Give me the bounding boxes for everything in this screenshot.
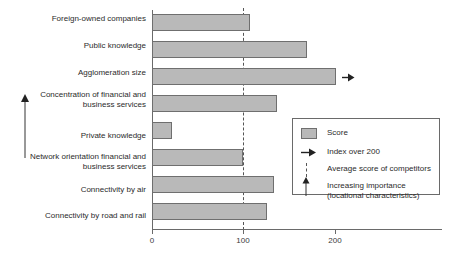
bar-foreign-owned-companies (152, 14, 250, 31)
bar-concentration-financial-business-services (152, 95, 277, 112)
score-swatch-icon (301, 128, 327, 139)
x-tick-0 (152, 229, 153, 234)
x-axis-line (152, 229, 442, 230)
x-tick-label-0: 0 (150, 236, 154, 245)
bar-connectivity-by-air (152, 176, 274, 193)
category-label: Connectivity by road and rail (2, 211, 146, 221)
legend-entry-increasing-importance: Increasing importance (locational charac… (301, 181, 419, 200)
x-tick-label-200: 200 (328, 236, 341, 245)
legend-label: Average score of competitors (327, 164, 431, 174)
x-tick-200 (335, 229, 336, 234)
dashed-line-icon (301, 164, 327, 175)
x-tick-label-100: 100 (236, 236, 249, 245)
bar-private-knowledge (152, 122, 172, 139)
legend: Score Index over 200 Average score of co… (292, 118, 440, 195)
legend-entry-average-score: Average score of competitors (301, 164, 431, 175)
category-label: Connectivity by air (2, 185, 146, 195)
legend-entry-index-over-200: Index over 200 (301, 147, 380, 158)
legend-entry-score: Score (301, 128, 348, 139)
legend-label: Index over 200 (327, 147, 380, 157)
x-tick-100 (243, 229, 244, 234)
bar-chart: 0 100 200 Foreign-owned companies Public… (0, 0, 451, 256)
legend-label: Score (327, 128, 348, 138)
increasing-importance-arrow-icon (18, 94, 32, 158)
increasing-importance-arrow-icon (301, 181, 327, 192)
bar-network-orientation-financial-business-services (152, 149, 243, 166)
legend-label: Increasing importance (locational charac… (327, 181, 419, 200)
over-200-arrow-icon (301, 147, 327, 158)
bar-agglomeration-size (152, 68, 336, 85)
bar-connectivity-by-road-and-rail (152, 203, 267, 220)
bar-public-knowledge (152, 41, 307, 58)
category-label: Agglomeration size (2, 68, 146, 78)
index-over-200-arrow-icon (342, 68, 355, 77)
category-label: Foreign-owned companies (2, 14, 146, 24)
category-label: Public knowledge (2, 41, 146, 51)
